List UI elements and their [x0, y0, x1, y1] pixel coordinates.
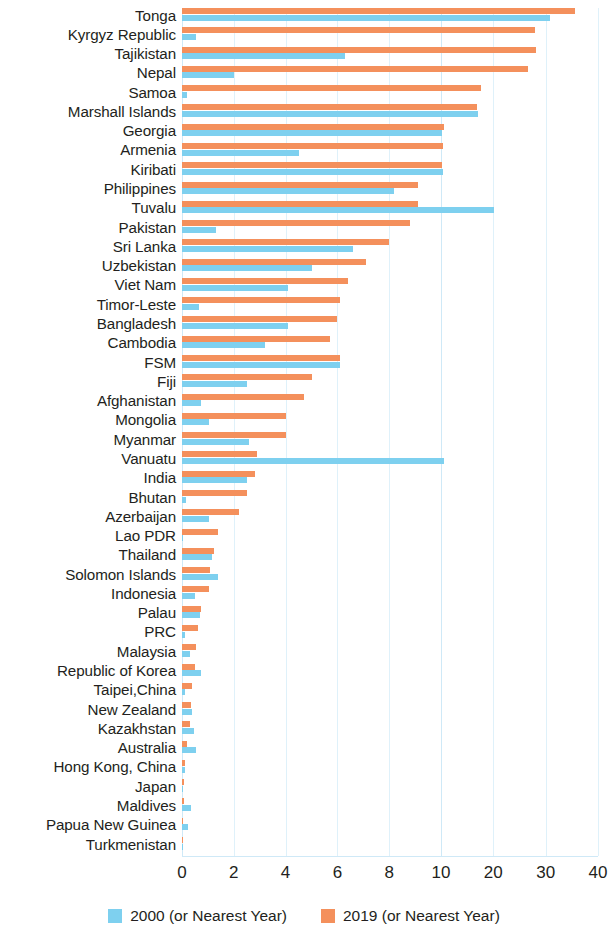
bar-2019 [182, 27, 535, 33]
bar-2000 [182, 323, 288, 329]
category-label: Thailand [119, 547, 176, 563]
bar-group [182, 721, 598, 734]
category-label: Solomon Islands [65, 567, 176, 583]
bar-2000 [182, 265, 312, 271]
bar-group [182, 625, 598, 638]
category-label: Malaysia [117, 644, 176, 660]
bar-2019 [182, 278, 348, 284]
category-label: Philippines [104, 181, 176, 197]
bar-2000 [182, 612, 200, 618]
bar-2000 [182, 593, 195, 599]
category-label: Marshall Islands [68, 104, 176, 120]
bar-group [182, 201, 598, 214]
bar-2000 [182, 362, 340, 368]
category-label: Indonesia [111, 586, 176, 602]
bar-2000 [182, 227, 216, 233]
category-label: Kiribati [130, 162, 176, 178]
bar-2000 [182, 130, 442, 136]
gridline-40 [598, 8, 599, 856]
bar-2019 [182, 818, 183, 824]
bar-2019 [182, 432, 286, 438]
category-label: Bangladesh [97, 316, 176, 332]
bar-group [182, 471, 598, 484]
x-tick-label: 0 [177, 862, 186, 884]
bar-2019 [182, 606, 201, 612]
x-tick-label: 6 [333, 862, 342, 884]
legend-item[interactable]: 2019 (or Nearest Year) [321, 907, 500, 925]
category-label: Bhutan [128, 490, 176, 506]
bar-2019 [182, 567, 210, 573]
bar-2019 [182, 104, 477, 110]
category-label: Tuvalu [132, 200, 176, 216]
bar-group [182, 355, 598, 368]
bar-2000 [182, 15, 550, 21]
bar-2019 [182, 143, 443, 149]
bar-group [182, 760, 598, 773]
category-label: New Zealand [88, 702, 176, 718]
x-tick-label: 4 [281, 862, 290, 884]
bar-group [182, 837, 598, 850]
category-label: Azerbaijan [105, 509, 176, 525]
bar-2000 [182, 728, 194, 734]
category-label: India [144, 470, 176, 486]
bar-group [182, 644, 598, 657]
category-axis-labels: TongaKyrgyz RepublicTajikistanNepalSamoa… [0, 8, 176, 856]
bar-group [182, 85, 598, 98]
category-label: Sri Lanka [113, 239, 176, 255]
x-axis-tick-labels: 0246810203040 [0, 862, 608, 888]
bar-group [182, 586, 598, 599]
bar-2019 [182, 664, 195, 670]
plot-area [182, 8, 598, 856]
category-label: Georgia [123, 123, 176, 139]
bar-2019 [182, 220, 410, 226]
bar-2000 [182, 169, 443, 175]
x-tick-label: 8 [384, 862, 393, 884]
category-label: Cambodia [108, 335, 176, 351]
bar-2019 [182, 683, 192, 689]
category-label: Fiji [157, 374, 176, 390]
bar-group [182, 606, 598, 619]
category-label: PRC [144, 624, 176, 640]
category-label: Nepal [137, 65, 176, 81]
legend-label: 2000 (or Nearest Year) [130, 907, 287, 925]
bar-2019 [182, 316, 337, 322]
bar-2000 [182, 458, 444, 464]
bar-2000 [182, 535, 183, 541]
category-label: Armenia [120, 142, 176, 158]
category-label: Hong Kong, China [53, 759, 176, 775]
legend-item[interactable]: 2000 (or Nearest Year) [108, 907, 287, 925]
bar-2000 [182, 805, 191, 811]
bar-2000 [182, 92, 187, 98]
bar-2000 [182, 72, 234, 78]
category-label: Kyrgyz Republic [68, 27, 176, 43]
x-tick-label: 2 [229, 862, 238, 884]
category-label: Vanuatu [121, 451, 176, 467]
legend-label: 2019 (or Nearest Year) [343, 907, 500, 925]
bar-2000 [182, 477, 247, 483]
bar-2000 [182, 554, 212, 560]
bar-2019 [182, 644, 196, 650]
x-tick-label: 30 [536, 862, 555, 884]
bar-2019 [182, 798, 184, 804]
bar-2000 [182, 439, 249, 445]
bar-group [182, 297, 598, 310]
bar-2000 [182, 689, 185, 695]
bar-2019 [182, 162, 442, 168]
category-label: Palau [138, 605, 176, 621]
bar-2019 [182, 297, 340, 303]
bar-2000 [182, 381, 247, 387]
category-label: Japan [135, 779, 176, 795]
bar-2019 [182, 702, 191, 708]
bar-group [182, 336, 598, 349]
bar-group [182, 259, 598, 272]
bar-group [182, 278, 598, 291]
category-label: FSM [144, 355, 176, 371]
bar-group [182, 66, 598, 79]
bar-2000 [182, 574, 218, 580]
bar-2000 [182, 34, 196, 40]
bar-2019 [182, 625, 198, 631]
bar-group [182, 818, 598, 831]
bar-2000 [182, 747, 196, 753]
bar-group [182, 47, 598, 60]
x-tick-label: 20 [484, 862, 503, 884]
